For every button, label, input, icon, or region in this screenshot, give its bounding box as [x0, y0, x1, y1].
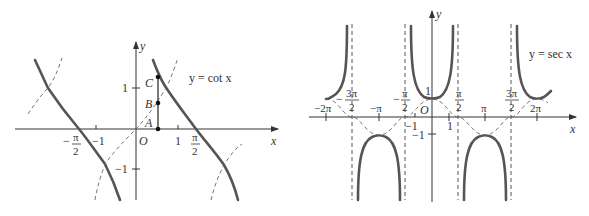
- label-c: C: [145, 76, 154, 90]
- x-axis-label: x: [270, 134, 277, 148]
- svg-text:−: −: [393, 92, 400, 106]
- svg-text:π: π: [456, 87, 462, 99]
- y-tick-one-label: 1: [425, 84, 431, 98]
- x-axis-label: x: [569, 122, 576, 136]
- point-b: [156, 101, 161, 106]
- x-tick-neg-one-label: −1: [405, 119, 418, 133]
- svg-text:2: 2: [456, 101, 462, 113]
- sec-branch-upper-right: [517, 26, 551, 99]
- origin-label: O: [139, 134, 148, 148]
- x-tick-neg-pi-2-label: − π 2: [393, 87, 410, 113]
- y-tick-neg-one-label: −1: [115, 162, 128, 176]
- x-tick-one-label: 1: [175, 134, 181, 148]
- sec-branch-lower-right: [464, 136, 506, 201]
- svg-text:π: π: [402, 87, 408, 99]
- x-tick-one-label: 1: [447, 119, 453, 133]
- y-axis-label: y: [435, 7, 442, 21]
- x-tick-neg-2pi-label: −2π: [314, 102, 332, 114]
- y-tick-one-label: 1: [122, 81, 128, 95]
- x-tick-neg-half-pi-label: − π 2: [63, 131, 81, 157]
- y-axis-label: y: [139, 39, 146, 53]
- x-tick-half-pi-label: π 2: [191, 131, 200, 157]
- svg-text:π: π: [192, 131, 198, 143]
- x-tick-pi-label: π: [481, 102, 487, 114]
- label-a: A: [144, 116, 153, 130]
- svg-text:π: π: [73, 131, 79, 143]
- point-a: [156, 127, 161, 132]
- point-c: [156, 75, 161, 80]
- svg-text:2: 2: [349, 101, 355, 113]
- svg-text:2: 2: [192, 145, 198, 157]
- x-tick-3pi-2-label: 3π 2: [505, 87, 519, 113]
- x-tick-neg-one-label: −1: [92, 134, 105, 148]
- tan-dashed-left: [28, 58, 62, 114]
- x-tick-neg-pi-label: −π: [370, 102, 382, 114]
- sec-chart: y x O y = sec x 1 −1 −1 1 −2π −π π 2π − …: [309, 7, 576, 202]
- sec-title: y = sec x: [529, 47, 572, 61]
- cot-chart: C B A y x O y = cot x 1 −1 −1 1 − π 2 π …: [15, 39, 278, 200]
- svg-text:−: −: [63, 134, 70, 148]
- svg-text:2: 2: [73, 145, 79, 157]
- svg-text:2: 2: [509, 101, 515, 113]
- cot-title: y = cot x: [189, 71, 231, 85]
- svg-text:−: −: [336, 92, 343, 106]
- svg-text:3π: 3π: [346, 87, 358, 99]
- x-tick-pi-2-label: π 2: [455, 87, 464, 113]
- label-b: B: [145, 97, 153, 111]
- sec-branch-lower-left: [358, 136, 400, 201]
- figure: C B A y x O y = cot x 1 −1 −1 1 − π 2 π …: [0, 0, 589, 216]
- x-tick-2pi-label: 2π: [530, 102, 542, 114]
- sec-branch-upper-left: [326, 26, 347, 99]
- svg-text:2: 2: [402, 101, 408, 113]
- cot-branch-left: [35, 60, 120, 200]
- origin-label: O: [420, 103, 429, 117]
- svg-text:3π: 3π: [506, 87, 518, 99]
